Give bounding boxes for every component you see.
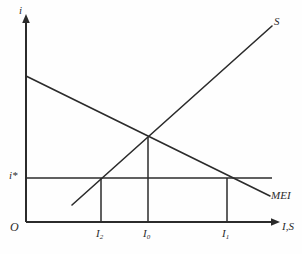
- tick-label-i2: I2: [96, 228, 103, 241]
- x-axis-arrow-icon: [271, 218, 280, 226]
- tick-label-i2-sub: 2: [100, 233, 104, 241]
- y-axis-label: i: [19, 5, 22, 16]
- diagram-canvas: [0, 0, 302, 254]
- x-axis-label: I,S: [282, 221, 294, 232]
- tick-label-i0: I0: [143, 228, 150, 241]
- equilibrium-rate-label: i*: [9, 170, 18, 181]
- mei-curve-label: MEI: [271, 190, 291, 201]
- investment-savings-diagram: i O I,S i* S MEI I2 I0 I1: [0, 0, 302, 254]
- origin-label: O: [10, 221, 19, 233]
- savings-curve-label: S: [274, 16, 280, 27]
- tick-label-i1: I1: [222, 228, 229, 241]
- tick-label-i1-sub: 1: [226, 233, 230, 241]
- y-axis-arrow-icon: [22, 14, 30, 23]
- tick-label-i0-sub: 0: [147, 233, 151, 241]
- equilibrium-rate-text: i*: [9, 169, 18, 181]
